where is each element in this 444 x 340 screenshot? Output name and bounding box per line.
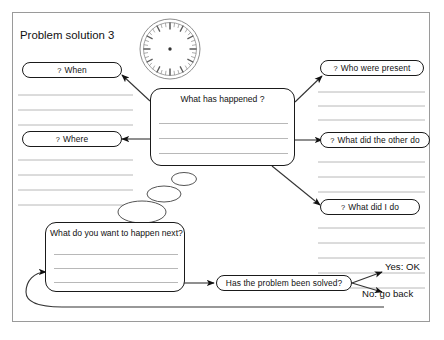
prompt-when[interactable]: ? When [22,62,122,78]
arrow-yes [352,272,382,283]
writing-line [159,153,288,154]
question-mark-icon: ? [57,66,61,75]
arrow-to-who [295,76,322,102]
writing-line [54,268,178,269]
branch-no-label: No: go back [362,288,413,299]
bubble-small [172,173,197,186]
right-ruled-lines [318,92,425,288]
branch-yes-label: Yes: OK [385,261,420,272]
prompt-who-were-present[interactable]: ? Who were present [320,60,424,76]
arrow-to-i-do [272,166,320,205]
question-mark-icon: ? [330,136,334,145]
box-what-has-happened-title: What has happened ? [151,94,294,104]
writing-line [159,123,288,124]
clock-face-icon [140,19,200,79]
decision-label: Has the problem been solved? [226,278,342,288]
prompt-what-did-i-do[interactable]: ? What did I do [320,199,420,215]
bubble-medium [147,186,181,202]
question-mark-icon: ? [341,203,345,212]
prompt-what-did-i-do-label: What did I do [348,202,399,212]
writing-line [54,254,178,255]
worksheet-page: Problem solution 3 ? When ? Where ? Who … [0,0,444,340]
left-ruled-lines [18,95,133,205]
thought-bubble-ellipses [118,173,197,224]
box-what-has-happened[interactable]: What has happened ? [150,88,295,166]
box-what-do-you-want-next[interactable]: What do you want to happen next? [45,222,185,292]
arrow-to-when [122,75,150,101]
prompt-when-label: When [64,65,86,75]
question-mark-icon: ? [56,135,60,144]
prompt-where[interactable]: ? Where [22,131,122,147]
prompt-what-did-other-do-label: What did the other do [338,135,420,145]
bubble-large [118,201,166,223]
writing-line [54,282,178,283]
decision-has-problem-been-solved[interactable]: Has the problem been solved? [216,275,352,291]
writing-line [159,138,288,139]
prompt-what-did-other-do[interactable]: ? What did the other do [320,132,430,148]
page-title: Problem solution 3 [20,29,114,41]
box-what-do-you-want-next-title: What do you want to happen next? [50,228,182,238]
question-mark-icon: ? [334,64,338,73]
prompt-who-were-present-label: Who were present [341,63,411,73]
prompt-where-label: Where [63,134,88,144]
